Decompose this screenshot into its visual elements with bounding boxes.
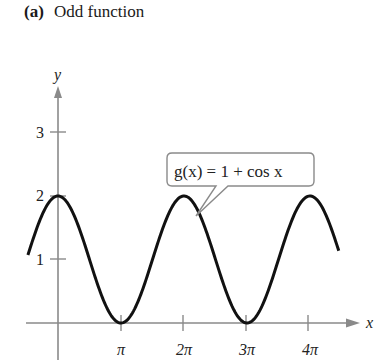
series-line-g: [28, 196, 339, 323]
x-axis-label: x: [365, 314, 373, 331]
y-tick-label: 2: [36, 187, 44, 204]
y-tick-label: 1: [36, 251, 44, 268]
chart: y 123 x π2π3π4π g(x) = 1 + cos x: [0, 0, 386, 363]
callout-text: g(x) = 1 + cos x: [174, 162, 283, 181]
x-tick-label: π: [117, 341, 126, 358]
x-tick-label: 4π: [302, 341, 319, 358]
y-axis: y 123: [36, 66, 66, 360]
x-axis: x π2π3π4π: [26, 314, 373, 358]
callout: g(x) = 1 + cos x: [167, 153, 314, 216]
x-tick-labels: π2π3π4π: [117, 341, 319, 358]
x-tick-label: 3π: [238, 341, 256, 358]
y-tick-labels: 123: [36, 124, 44, 268]
y-tick-label: 3: [36, 124, 44, 141]
x-axis-arrow-icon: [346, 319, 360, 328]
x-tick-label: 2π: [176, 341, 193, 358]
y-axis-label: y: [52, 66, 62, 84]
y-axis-arrow-icon: [54, 86, 62, 98]
